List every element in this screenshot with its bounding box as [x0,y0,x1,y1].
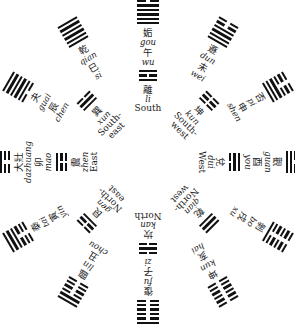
line-segment [60,153,62,161]
trigram-name: 坎 [143,229,153,240]
line-segment [139,79,157,81]
line-segment [137,9,159,11]
hexagram-bo-content: 剝bo戌xu [223,197,295,255]
trigram-li-content: 離liSouth [134,70,162,113]
line-segment [229,153,231,161]
line-segment [290,151,292,173]
line-segment [149,243,157,245]
yang-line [56,153,58,171]
line-segment [149,252,157,254]
line-segment [150,0,159,2]
line-segment [8,151,10,160]
yang-line [238,153,240,171]
line-segment [229,163,231,171]
line-segment [4,151,6,160]
hexagram-fu-content: 復fu子zi [134,257,162,324]
hexagram-pinyin: fu [144,277,153,286]
line-segment [8,164,10,173]
line-segment [4,164,6,173]
hexagram-gou-content: 姤gou午wu [134,0,162,67]
yang-line [137,4,159,6]
yin-line [137,300,159,302]
trigram-dui-content: 兌duiWest [197,148,240,176]
line-segment [137,18,159,20]
earthly-branch-pinyin: wu [142,58,155,67]
trigram-xun-content: 巽xunSouth-east [73,87,130,144]
trigram-qian-content: 乾qianNorth-west [166,180,223,237]
line-segment [139,252,147,254]
line-segment [286,151,288,173]
hexagram-dun-content: 遯dun未wei [183,15,241,87]
hexagram-tai-content: 泰tai寅yin [1,197,73,255]
hexagram-name: 觀 [272,157,283,167]
trigram-pinyin: kan [140,220,156,229]
hexagram-pi-content: 否pi申shen [223,69,295,127]
line-segment [139,70,157,72]
direction-label: West [197,151,206,173]
yang-line [139,79,157,81]
line-segment [150,300,159,302]
direction-label: North [135,211,162,220]
yang-line [0,151,2,173]
line-segment [238,153,240,171]
hexagram-lines-icon [137,300,159,324]
line-segment [137,22,159,24]
line-segment [150,304,159,306]
line-segment [60,163,62,171]
yang-line [137,9,159,11]
yang-line [137,18,159,20]
yang-line [139,70,157,72]
trigram-name: 兌 [215,157,226,167]
hexagram-guai-content: 夬guai辰chen [1,69,73,127]
line-segment [294,164,295,173]
yin-line [139,252,157,254]
line-segment [139,243,147,245]
hexagram-qian-content: 乾qian巳si [55,15,113,87]
yang-line [137,13,159,15]
yin-line [229,153,231,171]
line-segment [137,304,146,306]
hexagram-kun-content: 坤kun亥hai [183,237,241,309]
yin-line [137,308,159,310]
line-segment [137,0,146,2]
line-segment [137,308,146,310]
trigram-lines-icon [139,70,157,81]
yin-line [4,151,6,173]
hexagram-lin-content: 臨lin丑chou [55,237,113,309]
earthly-branch: 子 [143,266,153,277]
hexagram-name: 復 [143,286,153,297]
earthly-branch-pinyin: si [93,70,104,81]
yin-line [137,0,159,2]
line-segment [139,247,157,249]
earthly-branch-pinyin: you [243,154,252,169]
earthly-branch-pinyin: mao [44,153,53,171]
yang-line [233,153,235,171]
yin-line [60,153,62,171]
hexagram-dazhuang-content: 大壯dazhuang卯mao [0,148,53,176]
trigram-lines-icon [139,243,157,254]
yin-line [65,153,67,171]
line-segment [137,13,159,15]
earthly-branch: 酉 [252,157,263,167]
line-segment [233,153,235,171]
hexagram-pinyin: gou [140,38,156,47]
hexagram-lines-icon [286,151,295,173]
line-segment [65,153,67,161]
direction-label: East [90,152,99,172]
line-segment [150,313,159,315]
hexagram-pinyin: guan [263,151,272,172]
yang-line [290,151,292,173]
trigram-kan-content: 坎kanNorth [134,211,162,254]
hexagram-guan-content: 觀guan酉you [243,148,295,176]
trigram-kun-content: 坤kunSouth-west [166,87,223,144]
line-segment [137,4,159,6]
yin-line [294,151,295,173]
line-segment [137,313,146,315]
yin-line [8,151,10,173]
earthly-branch-pinyin: zi [144,257,151,266]
line-segment [65,163,67,171]
yin-line [137,313,159,315]
hexagram-pinyin: dazhuang [24,141,33,183]
trigram-gen-content: 艮genNorth-east [73,180,130,237]
line-segment [294,151,295,160]
